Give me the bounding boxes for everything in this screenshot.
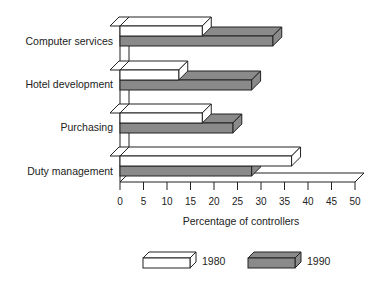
legend-label: 1980 — [202, 255, 226, 267]
legend-label: 1990 — [307, 255, 331, 267]
category-label: Hotel development — [25, 78, 113, 90]
x-axis-title: Percentage of controllers — [183, 215, 300, 227]
legend-item-1980: 1980 — [143, 252, 226, 268]
x-tick-label: 15 — [185, 196, 197, 207]
x-tick-label: 50 — [349, 196, 361, 207]
category-label: Duty management — [27, 165, 113, 177]
category-label: Computer services — [25, 35, 113, 47]
x-tick-label: 45 — [326, 196, 338, 207]
bar-1980-0 — [120, 17, 211, 36]
legend: 19801990 — [143, 252, 331, 268]
x-tick-label: 10 — [161, 196, 173, 207]
category-labels: Computer servicesHotel developmentPurcha… — [25, 35, 113, 177]
x-tick-label: 40 — [302, 196, 314, 207]
legend-item-1990: 1990 — [248, 252, 331, 268]
x-tick-label: 20 — [208, 196, 220, 207]
bars — [120, 17, 301, 176]
bar-1980-2 — [120, 104, 211, 123]
x-tick-label: 0 — [117, 196, 123, 207]
bar-1980-3 — [120, 147, 301, 166]
x-axis: 05101520253035404550 — [117, 182, 361, 207]
x-tick-label: 5 — [141, 196, 147, 207]
bar-1980-1 — [120, 61, 188, 80]
x-tick-label: 25 — [232, 196, 244, 207]
x-tick-label: 30 — [255, 196, 267, 207]
category-label: Purchasing — [60, 121, 113, 133]
x-tick-label: 35 — [279, 196, 291, 207]
bar-chart: 05101520253035404550 Computer servicesHo… — [0, 0, 387, 283]
